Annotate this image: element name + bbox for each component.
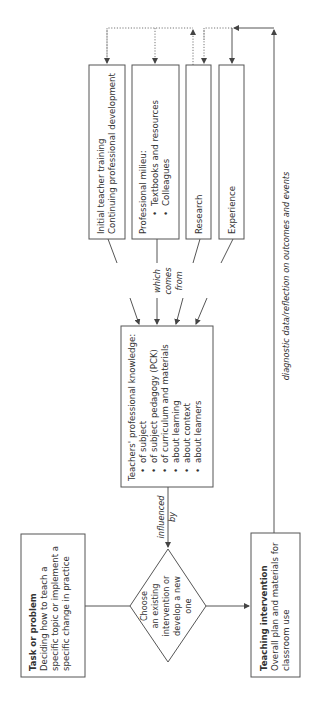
decision-line-3: intervention or	[161, 575, 171, 636]
milieu-bullet-1: Textbooks and resources	[150, 99, 160, 207]
knowledge-title: Teachers' professional knowledge:	[127, 334, 137, 482]
knowledge-item-2: of subject pedagogy (PCK)	[149, 349, 159, 463]
training-line-1: Initial teacher training	[96, 139, 106, 234]
task-line-2: specific topic or implement a	[50, 546, 60, 671]
dotted-route-training	[107, 28, 193, 63]
dotted-route-research	[204, 28, 232, 40]
source-box-training: Initial teacher training Continuing prof…	[89, 65, 125, 239]
source-label-from: from	[174, 271, 184, 290]
experience-label: Experience	[227, 186, 237, 234]
task-line-1: Deciding how to teach a	[39, 567, 49, 671]
decision-line-5: one	[183, 598, 193, 613]
milieu-bullet-2: Colleagues	[161, 158, 171, 206]
teaching-intervention-diagram: Initial teacher training Continuing prof…	[0, 0, 310, 705]
knowledge-bullet-dot: •	[171, 468, 181, 473]
knowledge-bullet-dot: •	[138, 468, 148, 473]
source-box-research: Research	[186, 65, 211, 239]
decision-diamond: Choose an existing intervention or devel…	[130, 549, 206, 662]
knowledge-bullet-dot: •	[193, 468, 203, 473]
intervention-line-2: classroom use	[281, 609, 291, 671]
milieu-title: Professional milieu:	[138, 150, 148, 234]
knowledge-item-4: about learning	[171, 400, 181, 463]
decision-line-2: an existing	[150, 584, 160, 629]
milieu-bullet-2-dot: •	[161, 211, 171, 216]
task-box: Task or problem Deciding how to teach a …	[21, 534, 85, 677]
knowledge-item-3: of curriculum and materials	[160, 344, 170, 463]
knowledge-item-5: about context	[182, 402, 192, 463]
task-line-3: specific change in practice	[61, 556, 71, 671]
intervention-line-1: Overall plan and materials for	[270, 542, 280, 671]
knowledge-box: Teachers' professional knowledge: • of s…	[121, 326, 213, 487]
source-box-experience: Experience	[219, 65, 244, 239]
influence-label-1: influenced	[156, 495, 166, 539]
feedback-label: diagnostic data/reflection on outcomes a…	[281, 171, 291, 380]
decision-line-4: develop a new	[172, 576, 182, 636]
knowledge-item-1: of subject	[138, 420, 148, 463]
source-label-comes: comes	[163, 267, 173, 295]
task-title: Task or problem	[28, 593, 38, 671]
intervention-box: Teaching intervention Overall plan and m…	[251, 533, 300, 677]
knowledge-bullet-dot: •	[182, 468, 192, 473]
influence-label-2: by	[167, 512, 177, 522]
source-box-milieu: Professional milieu: • Textbooks and res…	[132, 65, 179, 239]
intervention-title: Teaching intervention	[259, 565, 269, 671]
training-line-2: Continuing professional development	[107, 73, 117, 234]
knowledge-bullet-dot: •	[149, 468, 159, 473]
knowledge-item-6: about learners	[193, 400, 203, 463]
milieu-bullet-1-dot: •	[150, 211, 160, 216]
source-label-which: which	[152, 269, 162, 293]
decision-line-1: Choose	[139, 591, 149, 621]
source-label: which comes from	[152, 267, 184, 295]
knowledge-bullet-dot: •	[160, 468, 170, 473]
research-label: Research	[194, 195, 204, 234]
